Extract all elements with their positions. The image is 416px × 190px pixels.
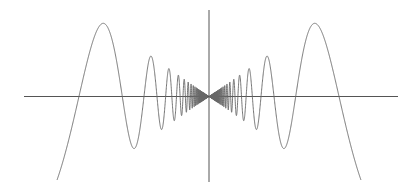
function-plot [0, 0, 416, 190]
